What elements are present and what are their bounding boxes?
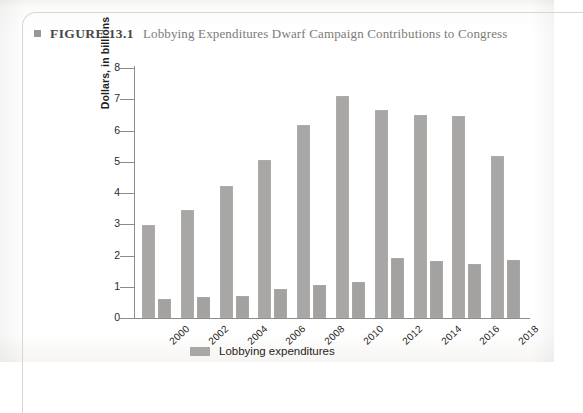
y-tick-mark [120,99,134,100]
bar-lobbying-2010 [336,96,349,319]
y-tick-mark [120,193,134,194]
y-tick-mark [120,131,134,132]
y-tick-label: 0 [98,311,120,323]
y-tick-mark [120,68,134,69]
bar-campaign-2004 [236,296,249,319]
bar-campaign-2012 [391,258,404,318]
x-tick-label-2016: 2016 [478,323,502,347]
y-tick-mark [120,162,134,163]
y-tick-mark [120,287,134,288]
x-tick-label-2010: 2010 [361,323,385,347]
y-tick-label: 5 [98,155,120,167]
bar-campaign-2010 [352,282,365,318]
y-tick-label: 4 [98,186,120,198]
bar-campaign-2000 [158,299,171,318]
y-tick-mark [120,256,134,257]
x-tick-label-2000: 2000 [167,323,191,347]
bar-lobbying-2000 [142,225,155,318]
y-tick-label: 6 [98,124,120,136]
x-tick-label-2008: 2008 [322,323,346,347]
y-tick-mark [120,318,134,319]
chart-legend: Lobbying expenditures [190,345,335,357]
y-axis-line [134,66,135,319]
bar-campaign-2008 [313,285,326,318]
bar-campaign-2018 [507,260,520,318]
y-tick-mark [120,224,134,225]
y-tick-label: 1 [98,280,120,292]
y-tick-label: 3 [98,217,120,229]
y-tick-label: 7 [98,92,120,104]
y-tick-label: 2 [98,249,120,261]
bar-lobbying-2016 [452,116,465,318]
x-tick-label-2018: 2018 [516,323,540,347]
x-tick-label-2004: 2004 [245,323,269,347]
x-tick-label-2014: 2014 [439,323,463,347]
bar-lobbying-2018 [491,156,504,319]
x-tick-label-2006: 2006 [284,323,308,347]
bar-lobbying-2006 [258,160,271,318]
x-tick-label-2012: 2012 [400,323,424,347]
bar-lobbying-2012 [375,110,388,318]
y-tick-label: 8 [98,61,120,73]
legend-label-lobbying: Lobbying expenditures [219,345,335,357]
bar-lobbying-2014 [414,115,427,318]
bar-campaign-2006 [274,289,287,318]
bar-campaign-2002 [197,297,210,318]
bar-lobbying-2004 [220,186,233,318]
bar-lobbying-2008 [297,125,310,318]
bar-lobbying-2002 [181,210,194,318]
legend-swatch-lobbying [190,347,210,356]
bar-campaign-2014 [430,261,443,318]
bar-campaign-2016 [468,264,481,318]
x-axis-line [134,318,530,319]
x-tick-label-2002: 2002 [206,323,230,347]
